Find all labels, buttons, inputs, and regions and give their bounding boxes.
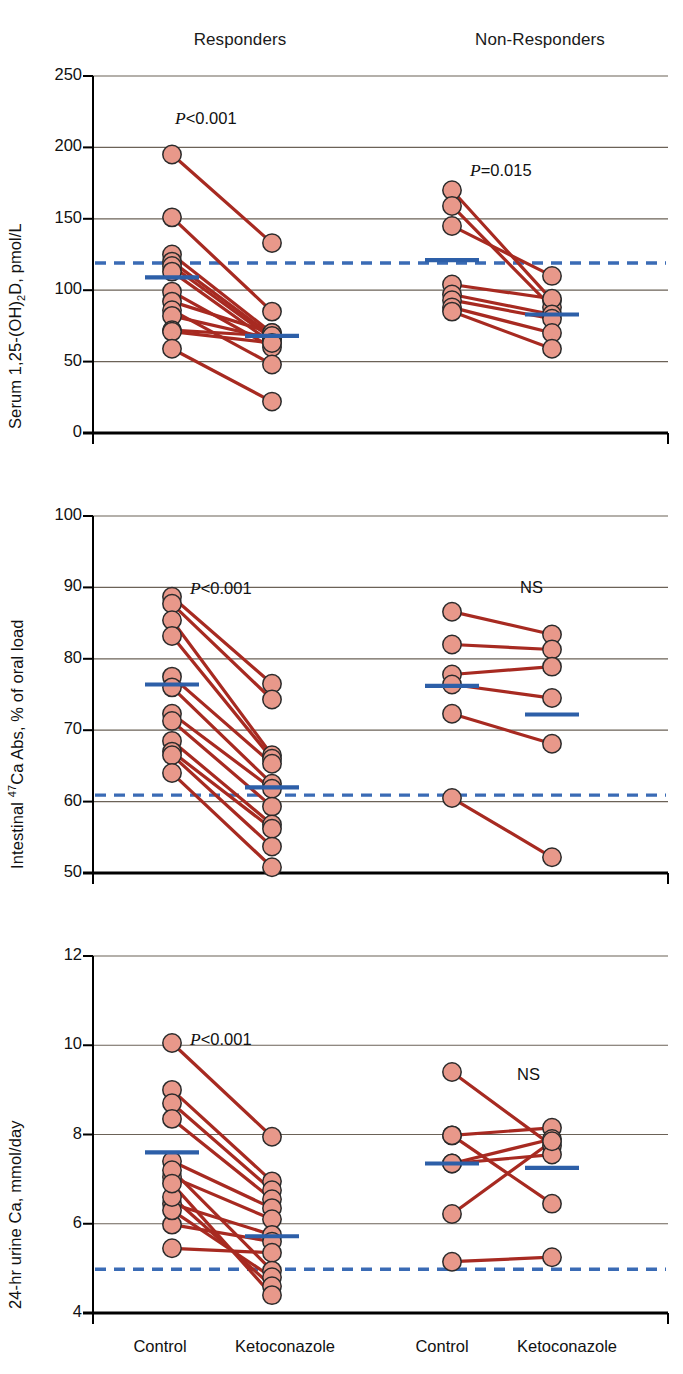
y-tick-label: 100 bbox=[30, 505, 82, 524]
y-tick-label: 6 bbox=[30, 1213, 82, 1232]
data-point bbox=[163, 322, 181, 340]
data-point bbox=[443, 789, 461, 807]
data-point bbox=[263, 392, 281, 410]
data-point bbox=[263, 1286, 281, 1304]
pair-connector bbox=[172, 1043, 272, 1137]
data-point bbox=[163, 1239, 181, 1257]
data-point bbox=[163, 595, 181, 613]
data-point bbox=[443, 217, 461, 235]
chart-svg-panel-2 bbox=[0, 500, 683, 900]
pvalue-annotation-responders: P<0.001 bbox=[190, 578, 252, 599]
data-point bbox=[163, 1034, 181, 1052]
pvalue-annotation-non-responders: NS bbox=[520, 578, 543, 597]
pvalue-annotation-non-responders: P=0.015 bbox=[470, 160, 532, 181]
pair-connector bbox=[452, 798, 552, 857]
pair-connector bbox=[452, 645, 552, 650]
pvalue-annotation-responders: P<0.001 bbox=[175, 108, 237, 129]
panel-urine-ca: 468101224-hr urine Ca, mmol/dayP<0.001NS bbox=[0, 940, 683, 1340]
pvalue-annotation-non-responders: NS bbox=[517, 1065, 540, 1084]
data-point bbox=[163, 764, 181, 782]
data-point bbox=[163, 627, 181, 645]
data-point bbox=[443, 302, 461, 320]
data-point bbox=[163, 1174, 181, 1192]
data-point bbox=[263, 755, 281, 773]
data-point bbox=[543, 267, 561, 285]
chart-svg-panel-3 bbox=[0, 940, 683, 1340]
y-tick-label: 12 bbox=[30, 945, 82, 964]
data-point bbox=[443, 705, 461, 723]
pair-connector bbox=[452, 226, 552, 276]
data-point bbox=[443, 1205, 461, 1223]
y-tick-label: 50 bbox=[30, 351, 82, 370]
y-tick-label: 0 bbox=[30, 422, 82, 441]
data-point bbox=[163, 678, 181, 696]
data-point bbox=[163, 746, 181, 764]
data-point bbox=[163, 145, 181, 163]
data-point bbox=[543, 657, 561, 675]
y-tick-label: 4 bbox=[30, 1302, 82, 1321]
y-tick-label: 10 bbox=[30, 1034, 82, 1053]
y-tick-label: 90 bbox=[30, 576, 82, 595]
series-responders bbox=[145, 1034, 299, 1305]
data-point bbox=[543, 340, 561, 358]
data-point bbox=[543, 1194, 561, 1212]
data-point bbox=[263, 355, 281, 373]
data-point bbox=[263, 1244, 281, 1262]
data-point bbox=[263, 858, 281, 876]
pair-connector bbox=[452, 612, 552, 635]
xaxis-label-control-nonresponders: Control bbox=[392, 1337, 492, 1356]
y-tick-label: 70 bbox=[30, 719, 82, 738]
figure-root: Responders Non-Responders 05010015020025… bbox=[0, 0, 683, 1374]
group-title-nonresponders: Non-Responders bbox=[430, 30, 650, 50]
data-point bbox=[543, 735, 561, 753]
data-point bbox=[543, 640, 561, 658]
pvalue-annotation-responders: P<0.001 bbox=[190, 1029, 252, 1050]
data-point bbox=[263, 837, 281, 855]
pair-connector bbox=[452, 190, 552, 300]
data-point bbox=[263, 690, 281, 708]
pair-connector bbox=[452, 667, 552, 675]
data-point bbox=[263, 820, 281, 838]
series-non-responders bbox=[425, 602, 579, 866]
xaxis-label-ketoconazole-nonresponders: Ketoconazole bbox=[487, 1337, 647, 1356]
data-point bbox=[443, 635, 461, 653]
y-axis-title: Serum 1,25-(OH)2D, pmol/L bbox=[6, 223, 27, 429]
pair-connector bbox=[452, 1257, 552, 1261]
series-responders bbox=[145, 145, 299, 410]
y-tick-label: 200 bbox=[30, 136, 82, 155]
pair-connector bbox=[172, 1248, 272, 1252]
data-point bbox=[263, 1128, 281, 1146]
y-tick-label: 250 bbox=[30, 65, 82, 84]
data-point bbox=[543, 689, 561, 707]
pair-connector bbox=[172, 1103, 272, 1190]
xaxis-label-control-responders: Control bbox=[110, 1337, 210, 1356]
y-axis-title: Intestinal 47Ca Abs, % of oral load bbox=[6, 619, 27, 869]
data-point bbox=[443, 1252, 461, 1270]
y-tick-label: 60 bbox=[30, 791, 82, 810]
xaxis-label-ketoconazole-responders: Ketoconazole bbox=[205, 1337, 365, 1356]
y-tick-label: 150 bbox=[30, 208, 82, 227]
data-point bbox=[263, 302, 281, 320]
data-point bbox=[543, 1248, 561, 1266]
data-point bbox=[163, 340, 181, 358]
data-point bbox=[263, 797, 281, 815]
data-point bbox=[443, 1126, 461, 1144]
panel-intestinal-ca-abs: 5060708090100Intestinal 47Ca Abs, % of o… bbox=[0, 500, 683, 900]
pair-connector bbox=[452, 714, 552, 744]
pair-connector bbox=[172, 741, 272, 825]
data-point bbox=[543, 848, 561, 866]
pair-connector bbox=[172, 636, 272, 759]
y-tick-label: 8 bbox=[30, 1124, 82, 1143]
series-responders bbox=[145, 587, 299, 876]
data-point bbox=[443, 197, 461, 215]
data-point bbox=[263, 234, 281, 252]
series-non-responders bbox=[425, 181, 579, 358]
series-non-responders bbox=[425, 1063, 579, 1271]
y-tick-label: 80 bbox=[30, 648, 82, 667]
chart-svg-panel-1 bbox=[0, 60, 683, 460]
data-point bbox=[163, 208, 181, 226]
data-point bbox=[543, 1132, 561, 1150]
panel-serum-vitamin-d: 050100150200250Serum 1,25-(OH)2D, pmol/L… bbox=[0, 60, 683, 460]
y-tick-label: 50 bbox=[30, 862, 82, 881]
y-tick-label: 100 bbox=[30, 279, 82, 298]
